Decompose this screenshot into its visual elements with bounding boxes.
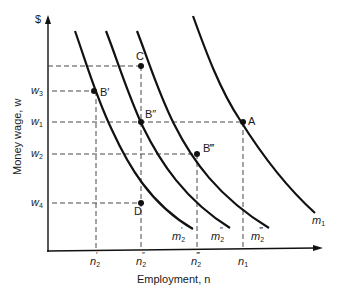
point-b-prime xyxy=(91,88,97,94)
label-curve-m1: m1 xyxy=(312,214,325,227)
tick-n1: n1 xyxy=(238,255,248,268)
x-axis-line xyxy=(47,248,316,251)
y-axis-arrow-icon xyxy=(45,15,51,24)
tick-n2-triple-prime: n2‴ xyxy=(191,250,201,268)
label-point-d: D xyxy=(134,205,142,217)
point-b-double-prime xyxy=(138,119,144,125)
tick-w3: w3 xyxy=(31,84,43,97)
point-c xyxy=(138,63,144,69)
curve-m2-prime xyxy=(75,31,193,229)
y-axis-title: Money wage, w xyxy=(11,99,23,175)
tick-n2-prime: n2′ xyxy=(90,250,100,268)
curve-m2-triple-prime xyxy=(137,31,269,228)
x-tick-labels: n2′ n2″ n2‴ n1 xyxy=(90,250,248,268)
label-curve-m2-triple-prime: m2‴ xyxy=(251,225,264,243)
diagram-canvas: $ Money wage, w Employment, n xyxy=(0,0,337,297)
label-point-b-double-prime: B″ xyxy=(145,108,156,120)
guide-lines xyxy=(48,66,243,250)
label-curve-m2-double-prime: m2″ xyxy=(211,225,224,243)
axes: $ Money wage, w Employment, n xyxy=(11,13,323,285)
tick-w1: w1 xyxy=(31,115,43,128)
label-point-b-prime: B′ xyxy=(100,86,109,98)
label-point-c: C xyxy=(136,50,144,62)
point-b-triple-prime xyxy=(194,151,200,157)
label-point-b-triple-prime: B‴ xyxy=(203,142,214,154)
tick-w2: w2 xyxy=(31,147,43,160)
curve-m2-double-prime xyxy=(106,31,230,228)
label-point-a: A xyxy=(248,115,256,127)
y-tick-labels: w3 w1 w2 w4 xyxy=(31,84,43,209)
x-axis-arrow-icon xyxy=(313,245,323,251)
label-curve-m2-prime: m2′ xyxy=(172,225,185,243)
x-axis-title: Employment, n xyxy=(137,273,210,285)
tick-n2-double-prime: n2″ xyxy=(136,250,146,268)
curve-labels: m2′ m2″ m2‴ m1 xyxy=(172,214,325,243)
y-axis-unit-label: $ xyxy=(35,13,41,25)
point-a xyxy=(240,119,246,125)
curves xyxy=(75,16,315,229)
tick-w4: w4 xyxy=(31,196,43,209)
